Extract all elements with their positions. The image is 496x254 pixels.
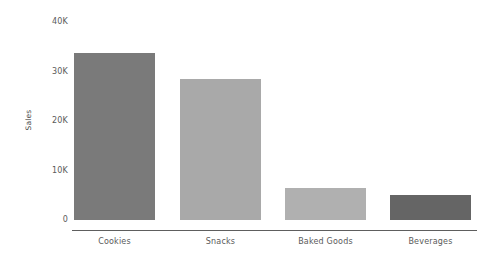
bar[interactable] xyxy=(390,195,471,220)
x-tick-label: Beverages xyxy=(408,238,452,246)
bar-chart: Sales 010K20K30K40K CookiesSnacksBaked G… xyxy=(0,0,496,254)
y-tick-label: 40K xyxy=(34,18,68,26)
y-axis-tick-labels: 010K20K30K40K xyxy=(0,0,68,254)
bar[interactable] xyxy=(74,53,155,220)
y-tick-label: 0 xyxy=(34,216,68,224)
x-tick-label: Cookies xyxy=(98,238,131,246)
y-tick-label: 10K xyxy=(34,167,68,175)
bar[interactable] xyxy=(285,188,366,220)
x-axis-line xyxy=(72,230,477,231)
bar[interactable] xyxy=(180,79,261,220)
y-tick-label: 30K xyxy=(34,68,68,76)
x-tick-label: Baked Goods xyxy=(298,238,353,246)
x-tick-label: Snacks xyxy=(206,238,235,246)
y-tick-label: 20K xyxy=(34,117,68,125)
plot-area: CookiesSnacksBaked GoodsBeverages xyxy=(72,10,476,220)
